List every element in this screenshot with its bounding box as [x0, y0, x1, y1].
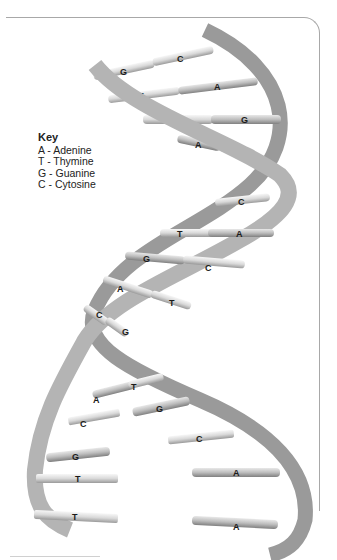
svg-text:T: T — [177, 229, 183, 239]
svg-text:A: A — [93, 395, 100, 405]
svg-text:T: T — [131, 382, 137, 392]
svg-text:A: A — [236, 229, 243, 239]
svg-text:C: C — [238, 197, 245, 207]
legend-item-cytosine: C - Cytosine — [38, 179, 96, 191]
dna-double-helix: G C T A C G A T C T A G C A — [0, 0, 337, 560]
svg-text:G: G — [241, 115, 248, 125]
svg-text:T: T — [72, 512, 78, 522]
svg-text:C: C — [196, 434, 203, 444]
unzipped-pair-1: C G — [68, 396, 191, 429]
svg-text:A: A — [117, 284, 124, 294]
legend-title: Key — [38, 132, 96, 144]
svg-text:C: C — [80, 419, 87, 429]
svg-text:A: A — [233, 522, 240, 532]
unzipped-pair-3: T A — [36, 468, 280, 484]
svg-text:C: C — [96, 310, 103, 320]
svg-text:A: A — [214, 82, 221, 92]
svg-text:C: C — [177, 54, 184, 64]
svg-text:T: T — [169, 298, 175, 308]
svg-text:C: C — [205, 263, 212, 273]
base-pair-10: A T — [92, 373, 165, 405]
svg-text:G: G — [120, 67, 127, 77]
svg-text:G: G — [122, 327, 129, 337]
svg-text:G: G — [143, 254, 150, 264]
unzipped-pair-2: G C — [46, 430, 234, 463]
legend-key: Key A - Adenine T - Thymine G - Guanine … — [38, 132, 96, 191]
svg-text:A: A — [233, 468, 240, 478]
svg-text:G: G — [72, 452, 79, 462]
legend-item-thymine: T - Thymine — [38, 156, 96, 168]
svg-text:G: G — [156, 404, 163, 414]
svg-text:T: T — [75, 474, 81, 484]
